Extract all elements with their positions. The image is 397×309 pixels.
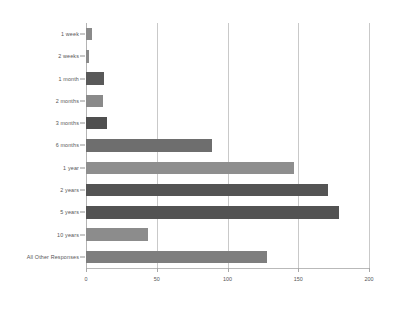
x-tick-label: 50: [154, 276, 160, 282]
bar-row: 5 years: [86, 206, 369, 218]
plot-area: 1 week2 weeks1 month2 months3 months6 mo…: [86, 23, 369, 268]
category-tick: [80, 190, 85, 191]
x-tick-mark: [86, 268, 87, 272]
bar-row: 3 months: [86, 117, 369, 129]
bar-row: 1 month: [86, 72, 369, 84]
category-label: 5 years: [60, 209, 79, 215]
bar: [86, 139, 212, 151]
bar-rows: 1 week2 weeks1 month2 months3 months6 mo…: [86, 23, 369, 268]
category-tick: [80, 56, 85, 57]
x-tick-label: 200: [365, 276, 374, 282]
x-tick-mark: [228, 268, 229, 272]
bar: [86, 162, 294, 174]
category-tick: [80, 123, 85, 124]
bar: [86, 206, 339, 218]
category-label: 2 months: [56, 98, 79, 104]
category-tick: [80, 100, 85, 101]
bar-row: All Other Responses: [86, 251, 369, 263]
category-label: 6 months: [56, 142, 79, 148]
bar: [86, 251, 267, 263]
category-tick: [80, 167, 85, 168]
bar-row: 1 week: [86, 28, 369, 40]
category-label: 1 month: [58, 76, 79, 82]
bar: [86, 72, 104, 84]
bar-row: 2 months: [86, 95, 369, 107]
bar-row: 6 months: [86, 139, 369, 151]
x-tick-mark: [298, 268, 299, 272]
bar: [86, 184, 328, 196]
bar-row: 2 years: [86, 184, 369, 196]
category-tick: [80, 145, 85, 146]
x-tick-label: 150: [294, 276, 303, 282]
category-label: 2 years: [60, 187, 79, 193]
category-tick: [80, 34, 85, 35]
category-label: 1 week: [61, 31, 79, 37]
category-label: 10 years: [57, 232, 79, 238]
bar: [86, 117, 107, 129]
category-label: All Other Responses: [27, 254, 79, 260]
category-tick: [80, 256, 85, 257]
x-tick-mark: [369, 268, 370, 272]
bar-row: 1 year: [86, 162, 369, 174]
bar-row: 2 weeks: [86, 50, 369, 62]
x-tick-label: 0: [85, 276, 88, 282]
bar: [86, 28, 92, 40]
bar: [86, 228, 148, 240]
category-tick: [80, 234, 85, 235]
x-tick-mark: [157, 268, 158, 272]
x-tick-label: 100: [223, 276, 232, 282]
horizontal-bar-chart: 1 week2 weeks1 month2 months3 months6 mo…: [0, 0, 397, 309]
bar-row: 10 years: [86, 228, 369, 240]
bar: [86, 50, 89, 62]
bar: [86, 95, 103, 107]
category-label: 3 months: [56, 120, 79, 126]
category-label: 1 year: [63, 165, 79, 171]
category-tick: [80, 78, 85, 79]
category-tick: [80, 212, 85, 213]
category-label: 2 weeks: [58, 53, 79, 59]
gridline-200: [369, 23, 370, 268]
